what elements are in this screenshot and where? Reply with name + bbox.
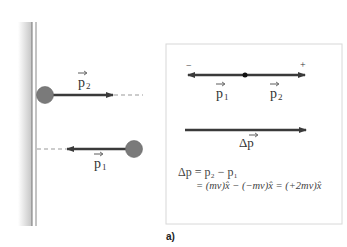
p2-label: p [78, 75, 85, 90]
delta-p-label: Δp [239, 135, 254, 150]
origin-dot [243, 73, 248, 78]
ball-before: p 1 [37, 141, 143, 173]
plus-sign: + [300, 59, 306, 70]
equation-line-2: = (mv)x̂ − (−mv)x̂ = (+2mv)x̂ [196, 180, 322, 192]
box-p2-label: p [270, 86, 277, 101]
p1-label: p [94, 156, 101, 171]
box-p2-subscript: 2 [278, 92, 283, 102]
p1-subscript: 1 [102, 162, 107, 172]
box-p1-label: p [216, 86, 223, 101]
ball-1 [126, 141, 143, 158]
wall-shading [18, 22, 32, 226]
momentum-diagram: p 2 p 1 − + p 1 p 2 Δp Δp = p₂ − [0, 0, 347, 247]
wall [18, 22, 36, 226]
box-p1-subscript: 1 [224, 92, 229, 102]
ball-after: p 2 [37, 71, 144, 104]
vector-diagram-box [166, 44, 342, 224]
minus-sign: − [186, 60, 192, 71]
ball-2 [37, 87, 54, 104]
equation-line-1: Δp = p₂ − p₁ [178, 165, 238, 179]
p2-subscript: 2 [86, 81, 91, 91]
figure-caption: a) [166, 231, 175, 242]
